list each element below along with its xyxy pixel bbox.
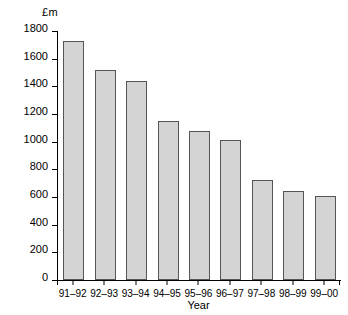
bar-98-99 <box>283 191 304 280</box>
bar-chart: £m 020040060080010001200140016001800 91–… <box>0 0 348 315</box>
bar-99-00 <box>315 196 336 280</box>
bar-slot <box>58 31 89 280</box>
bar-slot <box>215 31 246 280</box>
x-axis-tick-left <box>57 280 58 285</box>
y-axis-tick-label: 600 <box>30 189 48 200</box>
bar-93-94 <box>126 81 147 280</box>
bar-97-98 <box>252 180 273 280</box>
y-axis-tick-label: 0 <box>42 272 48 283</box>
bar-slot <box>89 31 120 280</box>
y-axis-unit-label: £m <box>42 6 58 19</box>
bar-94-95 <box>158 121 179 280</box>
bar-slot <box>247 31 278 280</box>
y-axis-tick-label: 1600 <box>24 51 48 62</box>
bar-slot <box>310 31 341 280</box>
bar-slot <box>184 31 215 280</box>
y-axis-tick-label: 1400 <box>24 78 48 89</box>
bar-91-92 <box>63 41 84 280</box>
bar-slot <box>152 31 183 280</box>
x-axis-tick-right <box>339 280 340 285</box>
y-axis-tick-label: 800 <box>30 161 48 172</box>
x-axis-title: Year <box>57 299 340 312</box>
y-axis: 020040060080010001200140016001800 <box>0 31 57 280</box>
y-axis-tick-label: 1800 <box>24 23 48 34</box>
y-axis-tick-label: 400 <box>30 217 48 228</box>
bar-slot <box>121 31 152 280</box>
y-axis-tick-label: 1200 <box>24 106 48 117</box>
y-axis-tick-label: 1000 <box>24 134 48 145</box>
bars-group <box>58 31 341 280</box>
bar-slot <box>278 31 309 280</box>
plot-area <box>57 31 341 281</box>
bar-95-96 <box>189 131 210 280</box>
bar-92-93 <box>95 70 116 280</box>
x-axis-end-ticks <box>57 280 340 286</box>
bar-96-97 <box>220 140 241 280</box>
y-axis-tick-label: 200 <box>30 244 48 255</box>
